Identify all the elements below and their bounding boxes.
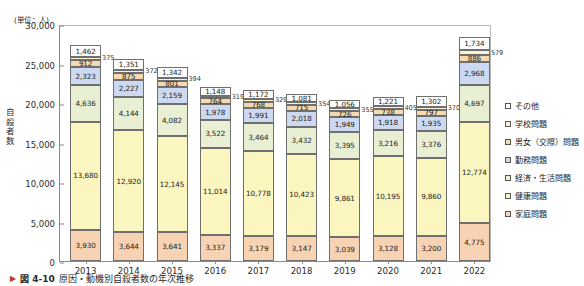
bar-segment-男女（交際）問題: 738	[373, 109, 404, 115]
bar-2016[interactable]: 3,33711,0143,5221,9787643191,1482016	[200, 87, 231, 261]
bar-segment-その他: 1,221	[373, 97, 404, 107]
bar-segment-男女（交際）問題: 875	[113, 73, 144, 80]
legend-item-男女（交際）問題[interactable]: 男女（交際）問題	[505, 136, 579, 147]
bar-segment-value: 1,081	[292, 94, 312, 103]
bar-2022[interactable]: 4,77512,7744,6972,9688865791,7342022	[459, 37, 490, 261]
y-axis-tick-label: 5,000	[31, 219, 60, 229]
bar-segment-経済・生活問題: 3,432	[286, 127, 317, 154]
x-axis-tick-mark	[86, 261, 87, 264]
bar-segment-value: 3,395	[335, 141, 355, 150]
bar-segment-学校問題: 370	[416, 107, 447, 110]
legend-swatch-icon	[505, 175, 511, 181]
bar-segment-勤務問題: 1,918	[373, 115, 404, 130]
x-axis-tick-label: 2022	[459, 266, 490, 276]
legend-label: その他	[515, 100, 539, 111]
bar-segment-value-学校問題: 394	[189, 75, 201, 83]
bar-segment-その他: 1,351	[113, 59, 144, 70]
legend-item-その他[interactable]: その他	[505, 100, 579, 111]
x-axis-tick-label: 2021	[416, 266, 447, 276]
y-axis-tick-label: 0	[50, 258, 60, 268]
bar-segment-value: 4,082	[162, 116, 182, 125]
bar-segment-家庭問題: 3,930	[70, 230, 101, 261]
bar-segment-家庭問題: 3,147	[286, 236, 317, 261]
bar-segment-value: 1,351	[119, 60, 139, 69]
bar-2019[interactable]: 3,0399,8613,3951,9497263551,0562019	[329, 100, 360, 261]
legend-item-学校問題[interactable]: 学校問題	[505, 118, 579, 129]
bar-segment-value: 3,200	[421, 244, 441, 253]
bar-segment-健康問題: 9,860	[416, 158, 447, 236]
bar-segment-男女（交際）問題: 726	[329, 111, 360, 117]
bar-segment-家庭問題: 3,039	[329, 237, 360, 261]
bar-segment-value: 4,697	[464, 99, 484, 108]
bar-2014[interactable]: 3,64412,9204,1442,2278753721,3512014	[113, 59, 144, 261]
bar-2021[interactable]: 3,2009,8603,3761,9357973701,3022021	[416, 96, 447, 261]
legend-item-勤務問題[interactable]: 勤務問題	[505, 154, 579, 165]
x-axis-tick-mark	[129, 261, 130, 264]
bar-2015[interactable]: 3,64112,1454,0822,1598013941,3422015	[157, 67, 188, 261]
bar-segment-value: 12,145	[160, 180, 185, 189]
bar-segment-男女（交際）問題: 886	[459, 55, 490, 62]
bar-segment-健康問題: 13,680	[70, 122, 101, 230]
bar-segment-value: 3,376	[421, 140, 441, 149]
bar-segment-value: 10,778	[246, 189, 271, 198]
bar-segment-value: 10,423	[289, 190, 314, 199]
bar-segment-value: 1,734	[464, 39, 484, 48]
legend-item-家庭問題[interactable]: 家庭問題	[505, 208, 579, 219]
x-axis-tick-label: 2019	[329, 266, 360, 276]
bar-segment-勤務問題: 2,227	[113, 80, 144, 98]
bar-segment-value: 1,342	[162, 68, 182, 77]
figure-caption: ▶ 図 4-10 原因・動機別自殺者数の年次推移	[10, 272, 194, 285]
bar-segment-value: 12,774	[462, 168, 487, 177]
bar-segment-value: 3,644	[119, 242, 139, 251]
bar-segment-value: 3,930	[76, 241, 96, 250]
x-axis-tick-mark	[302, 261, 303, 264]
bar-segment-学校問題: 394	[157, 78, 188, 81]
bar-segment-value: 1,056	[335, 100, 355, 109]
bar-segment-経済・生活問題: 4,082	[157, 104, 188, 136]
bar-segment-value: 1,935	[421, 119, 441, 128]
bar-2013[interactable]: 3,93013,6804,6362,3239123751,4622013	[70, 45, 101, 261]
bar-segment-勤務問題: 1,949	[329, 117, 360, 132]
bar-segment-男女（交際）問題: 801	[157, 81, 188, 87]
y-axis-tick-label: 20,000	[25, 100, 60, 110]
bar-segment-勤務問題: 1,935	[416, 116, 447, 131]
bar-segment-value: 3,216	[378, 139, 398, 148]
bar-segment-value: 3,432	[292, 136, 312, 145]
bar-segment-男女（交際）問題: 912	[70, 60, 101, 67]
bar-2020[interactable]: 3,12810,1953,2161,9187384051,2212020	[373, 97, 404, 261]
bar-segment-その他: 1,342	[157, 67, 188, 78]
bar-segment-健康問題: 10,778	[243, 151, 274, 236]
bar-segment-経済・生活問題: 3,395	[329, 132, 360, 159]
legend-label: 健康問題	[515, 190, 547, 201]
legend-item-経済・生活問題[interactable]: 経済・生活問題	[505, 172, 579, 183]
bar-segment-経済・生活問題: 3,376	[416, 131, 447, 158]
bar-segment-value: 13,680	[73, 171, 98, 180]
bar-segment-value: 9,860	[421, 192, 441, 201]
y-axis-tick-label: 25,000	[25, 61, 60, 71]
bar-segment-value: 4,636	[76, 99, 96, 108]
bar-segment-value: 3,641	[162, 242, 182, 251]
bar-segment-経済・生活問題: 3,522	[200, 120, 231, 148]
x-axis-tick-label: 2018	[286, 266, 317, 276]
bar-segment-その他: 1,148	[200, 87, 231, 96]
legend-label: 経済・生活問題	[515, 172, 571, 183]
legend-item-健康問題[interactable]: 健康問題	[505, 190, 579, 201]
x-axis-tick-label: 2017	[243, 266, 274, 276]
bar-segment-学校問題: 319	[200, 96, 231, 99]
bar-segment-value: 2,159	[162, 91, 182, 100]
bar-segment-健康問題: 11,014	[200, 148, 231, 235]
x-axis-tick-mark	[474, 261, 475, 264]
bar-segment-value: 1,991	[248, 111, 268, 120]
bar-segment-value-学校問題: 579	[491, 49, 503, 57]
bar-2018[interactable]: 3,14710,4233,4322,0187153541,0812018	[286, 94, 317, 261]
bar-2017[interactable]: 3,17910,7783,4641,9917683291,1722017	[243, 90, 274, 261]
bar-segment-学校問題: 355	[329, 108, 360, 111]
bar-segment-value: 4,144	[119, 109, 139, 118]
bar-segment-健康問題: 12,145	[157, 136, 188, 232]
legend-swatch-icon	[505, 139, 511, 145]
caption-arrow-icon: ▶	[10, 274, 16, 283]
bar-segment-学校問題: 579	[459, 50, 490, 55]
bar-segment-value: 1,918	[378, 118, 398, 127]
legend-label: 勤務問題	[515, 154, 547, 165]
bar-segment-学校問題: 354	[286, 102, 317, 105]
